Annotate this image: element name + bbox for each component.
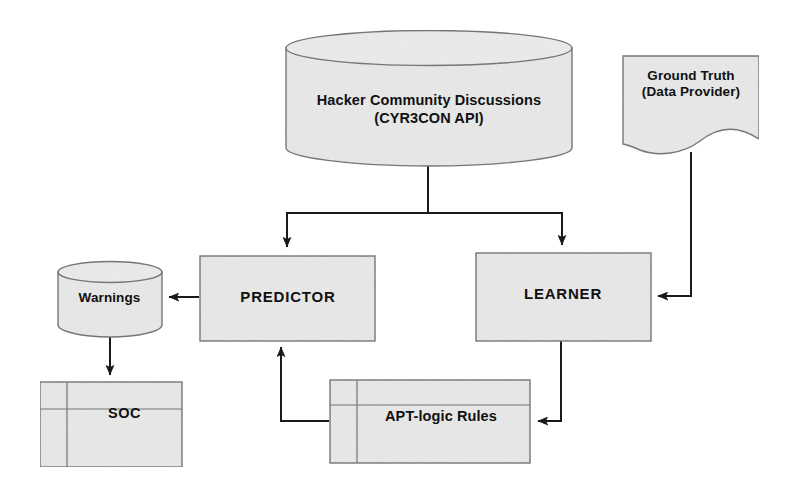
edge-groundtruth-to-learner [658, 152, 691, 296]
architecture-diagram: Hacker Community Discussions (CYR3CON AP… [0, 0, 795, 497]
edge-hacker-to-learner [428, 213, 562, 245]
node-warnings[interactable] [58, 262, 162, 338]
edge-hacker-to-predictor [287, 163, 428, 247]
edge-apt-rules-to-predictor [281, 347, 329, 421]
edge-learner-to-apt-rules [538, 341, 561, 421]
diagram-canvas [0, 0, 795, 497]
node-ground-truth[interactable] [623, 56, 759, 154]
node-apt-rules[interactable] [330, 380, 530, 463]
node-learner[interactable] [476, 253, 651, 341]
node-soc[interactable] [40, 382, 182, 467]
node-hacker-community[interactable] [286, 31, 572, 167]
node-predictor[interactable] [200, 256, 375, 341]
node-layer [40, 31, 759, 468]
